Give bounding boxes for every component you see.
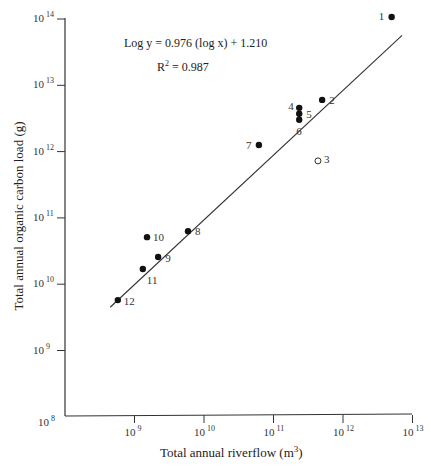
filled-marker [296, 117, 302, 123]
regression-line [110, 35, 402, 307]
point-label: 1 [379, 10, 385, 22]
point-label: 7 [246, 139, 252, 151]
filled-marker [296, 105, 302, 111]
point-label: 9 [165, 252, 171, 264]
y-tick-label: 10 9 [33, 342, 50, 356]
point-label: 8 [195, 225, 201, 237]
filled-marker [140, 266, 146, 272]
x-tick-label: 10 9 [125, 424, 142, 438]
filled-marker [115, 297, 121, 303]
r-squared-annotation: R2 = 0.987 [157, 59, 209, 74]
filled-marker [144, 234, 150, 240]
data-point: 11 [140, 266, 158, 286]
equation-annotation: Log y = 0.976 (log x) + 1.210 [124, 36, 267, 50]
y-axis-ticks: 10 810 910 1010 1110 1210 1310 14 [33, 10, 65, 428]
x-axis-title: Total annual riverflow (m3) [160, 444, 303, 460]
data-point: 7 [246, 139, 262, 151]
x-axis-line [65, 414, 412, 416]
open-marker [315, 158, 321, 164]
data-point: 12 [115, 295, 135, 307]
filled-marker [388, 14, 394, 20]
data-point: 1 [379, 10, 395, 22]
point-label: 3 [324, 153, 330, 165]
filled-marker [296, 111, 302, 117]
y-tick-label: 10 14 [33, 10, 54, 24]
x-axis-ticks: 10 910 1010 1110 1210 13 [125, 415, 424, 438]
data-point: 4 [288, 100, 302, 112]
filled-marker [256, 142, 262, 148]
data-point: 2 [319, 94, 335, 106]
x-tick-label: 10 11 [264, 424, 285, 438]
x-tick-label: 10 13 [403, 424, 424, 438]
y-axis-title: Total annual organic carbon load (g) [11, 121, 26, 310]
data-point: 3 [315, 153, 330, 165]
y-tick-label: 10 11 [33, 209, 54, 223]
point-label: 12 [124, 295, 135, 307]
y-tick-label: 10 10 [33, 275, 54, 289]
point-label: 6 [296, 125, 302, 137]
x-tick-label: 10 12 [333, 424, 354, 438]
filled-marker [155, 254, 161, 260]
point-label: 2 [329, 94, 335, 106]
x-tick-label: 10 10 [194, 424, 215, 438]
filled-marker [319, 97, 325, 103]
point-label: 4 [288, 100, 294, 112]
y-tick-label: 10 13 [33, 76, 54, 90]
data-points: 123456789101112 [115, 10, 395, 307]
data-point: 6 [296, 117, 302, 137]
scatter-chart: 10 810 910 1010 1110 1210 1310 14 10 910… [0, 0, 431, 470]
point-label: 5 [306, 108, 312, 120]
y-tick-label: 10 12 [33, 143, 54, 157]
axes [65, 18, 412, 416]
filled-marker [185, 228, 191, 234]
point-label: 11 [147, 274, 158, 286]
data-point: 10 [144, 231, 165, 243]
point-label: 10 [153, 231, 165, 243]
y-tick-label: 10 8 [38, 414, 55, 428]
